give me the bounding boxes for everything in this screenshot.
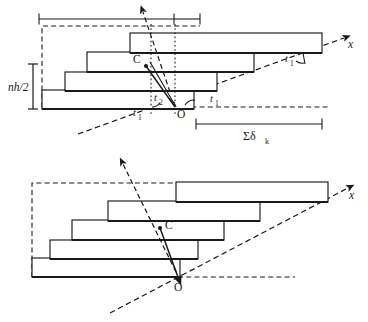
sum-delta-label: Σδ k xyxy=(243,129,269,146)
bottom-bar-5 xyxy=(176,182,328,202)
bottom-bar-3 xyxy=(72,220,224,240)
top-angle-t1-right-label: t 1 xyxy=(285,53,294,68)
bottom-centroid-label: C xyxy=(165,219,173,231)
svg-text:1: 1 xyxy=(215,99,219,108)
top-angle-t1-inner-label: t 1 xyxy=(210,93,219,108)
top-dimension-line-short xyxy=(174,14,200,25)
bottom-axis-x-label: x xyxy=(348,189,355,201)
bottom-bar-4 xyxy=(108,201,260,221)
top-centroid-label: C xyxy=(133,53,141,65)
top-bar-stack xyxy=(42,33,322,109)
bottom-bar-1 xyxy=(32,258,180,277)
svg-text:1: 1 xyxy=(138,113,142,122)
bottom-origin-label: O xyxy=(174,281,182,293)
nh2-label: nh/2 xyxy=(8,81,29,93)
top-bar-3 xyxy=(87,52,254,72)
bottom-centroid-dot xyxy=(158,226,162,230)
svg-text:t: t xyxy=(210,93,214,104)
bottom-bar-2 xyxy=(50,240,198,259)
diagram-svg: nh/2 C O x t 1 t 1 t 1 t 2 Σδ k xyxy=(0,0,368,322)
bottom-panel: C O x xyxy=(32,164,355,313)
svg-text:t: t xyxy=(285,53,289,64)
top-dimension-line xyxy=(39,14,174,25)
top-panel: nh/2 C O x t 1 t 1 t 1 t 2 Σδ k xyxy=(8,12,354,146)
svg-text:1: 1 xyxy=(290,59,294,68)
svg-text:Σδ: Σδ xyxy=(243,129,256,143)
top-axis-x-label: x xyxy=(347,38,354,50)
top-centroid-dot xyxy=(144,64,148,68)
top-origin-label: O xyxy=(177,108,185,120)
figure-container: nh/2 C O x t 1 t 1 t 1 t 2 Σδ k xyxy=(0,0,368,322)
svg-text:2: 2 xyxy=(159,98,163,107)
top-bar-4 xyxy=(130,33,322,53)
nh2-dimension xyxy=(28,64,38,109)
svg-text:k: k xyxy=(265,137,269,146)
top-bar-2 xyxy=(65,72,217,91)
sum-delta-dimension xyxy=(196,119,322,130)
bottom-bar-stack xyxy=(32,182,328,277)
